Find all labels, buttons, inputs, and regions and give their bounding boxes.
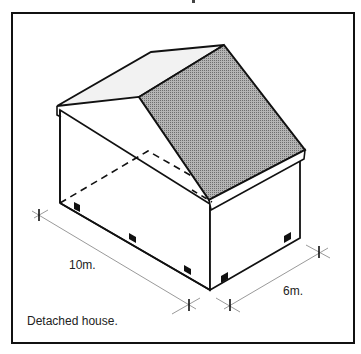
house-diagram (0, 0, 361, 354)
window-1 (74, 202, 80, 212)
window-2 (129, 233, 136, 243)
width-dimension-label: 6m. (283, 284, 303, 298)
length-dimension-label: 10m. (69, 258, 96, 272)
figure-caption: Detached house. (27, 314, 118, 328)
base-edge-long (60, 203, 210, 290)
window-3 (184, 265, 191, 275)
